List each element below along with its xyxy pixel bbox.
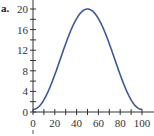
y-tick-label: 12 xyxy=(17,44,28,56)
x-tick-label: 80 xyxy=(115,117,127,129)
x-tick-label: 100 xyxy=(134,117,151,129)
y-tick-labels: 048121620 xyxy=(17,3,29,118)
y-tick-label: 4 xyxy=(23,85,29,97)
x-tick-label: 40 xyxy=(71,117,83,129)
y-tick-label: 0 xyxy=(23,106,29,118)
x-tick-label: 0 xyxy=(30,117,36,129)
panel-label: a. xyxy=(1,2,10,14)
y-tick-label: 8 xyxy=(23,65,29,77)
axes xyxy=(30,0,154,134)
x-tick-labels: 020406080100 xyxy=(30,117,151,129)
x-tick-label: 60 xyxy=(93,117,105,129)
y-tick-label: 16 xyxy=(17,24,29,36)
x-tick-label: 20 xyxy=(49,117,61,129)
chart: a. 048121620 020406080100 xyxy=(0,0,154,136)
data-curve xyxy=(33,9,142,109)
y-tick-label: 20 xyxy=(17,3,29,15)
